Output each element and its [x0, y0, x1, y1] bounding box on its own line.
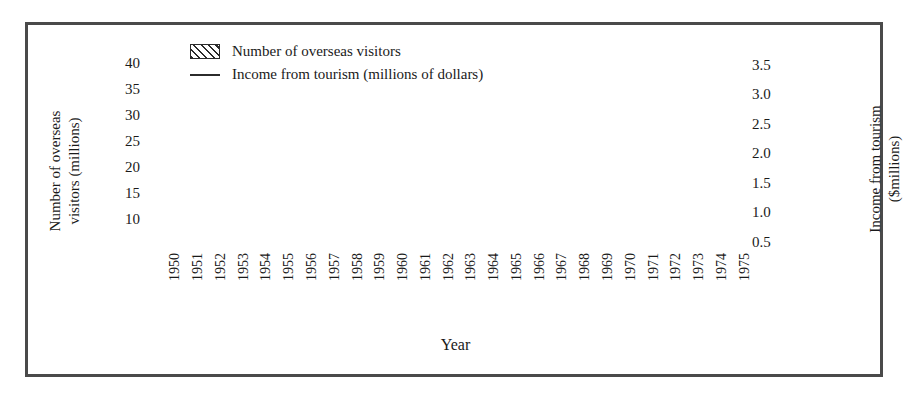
x-tick-label: 1951: [190, 253, 206, 281]
x-tick-label: 1965: [509, 253, 525, 281]
x-tick-label: 1958: [350, 253, 366, 281]
y-tick-label-left: 35: [100, 81, 140, 98]
x-tick-label: 1962: [441, 253, 457, 281]
y-tick-label-left: 40: [100, 55, 140, 72]
x-tick-label: 1974: [714, 253, 730, 281]
y-tick-label-right: 2.5: [752, 116, 792, 133]
x-axis-title: Year: [0, 336, 911, 354]
y-tick-label-left: 30: [100, 107, 140, 124]
x-tick-label: 1960: [395, 253, 411, 281]
x-tick-label: 1975: [737, 253, 753, 281]
y-tick-label-right: 1.0: [752, 204, 792, 221]
legend-item-line: Income from tourism (millions of dollars…: [190, 63, 483, 86]
x-tick-label: 1973: [691, 253, 707, 281]
y-tick-label-left: 15: [100, 185, 140, 202]
y-tick-label-right: 2.0: [752, 145, 792, 162]
x-tick-label: 1972: [668, 253, 684, 281]
x-tick-label: 1955: [281, 253, 297, 281]
chart-legend: Number of overseas visitors Income from …: [190, 40, 483, 86]
x-tick-label: 1956: [304, 253, 320, 281]
legend-item-bars: Number of overseas visitors: [190, 40, 483, 63]
legend-label-line: Income from tourism (millions of dollars…: [232, 66, 483, 83]
y-tick-label-right: 3.5: [752, 57, 792, 74]
y-tick-label-left: 25: [100, 133, 140, 150]
x-tick-label: 1953: [236, 253, 252, 281]
x-tick-label: 1959: [372, 253, 388, 281]
legend-label-bars: Number of overseas visitors: [232, 43, 401, 60]
hatched-swatch-icon: [190, 44, 220, 59]
x-tick-label: 1954: [258, 253, 274, 281]
line-swatch-icon: [190, 74, 220, 76]
y-tick-label-left: 20: [100, 159, 140, 176]
x-tick-label: 1970: [623, 253, 639, 281]
x-tick-label: 1961: [418, 253, 434, 281]
x-tick-label: 1969: [600, 253, 616, 281]
y-tick-label-left: 10: [100, 211, 140, 228]
x-tick-label: 1952: [213, 253, 229, 281]
x-tick-label: 1966: [532, 253, 548, 281]
chart-figure: Number of overseasvisitors (millions) In…: [0, 0, 911, 403]
x-tick-label: 1950: [167, 253, 183, 281]
y-tick-label-right: 3.0: [752, 86, 792, 103]
y-tick-label-right: 1.5: [752, 175, 792, 192]
y-axis-right-title: Income from tourism($millions): [866, 44, 904, 294]
x-tick-label: 1971: [646, 253, 662, 281]
x-tick-label: 1964: [486, 253, 502, 281]
y-tick-label-right: 0.5: [752, 234, 792, 251]
x-tick-label: 1957: [327, 253, 343, 281]
y-axis-left-title: Number of overseasvisitors (millions): [46, 46, 84, 296]
x-tick-label: 1967: [554, 253, 570, 281]
x-tick-label: 1968: [577, 253, 593, 281]
x-tick-label: 1963: [463, 253, 479, 281]
